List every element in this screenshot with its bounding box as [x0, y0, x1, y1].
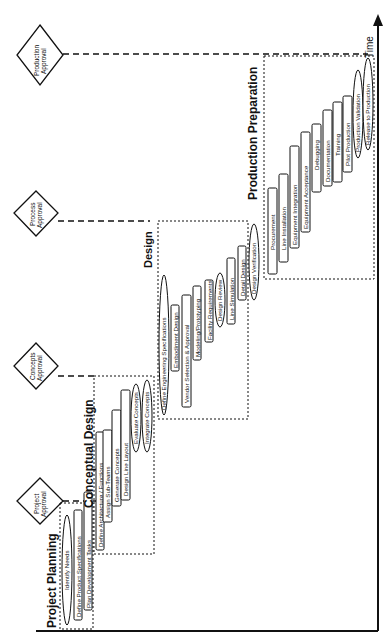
time-arrow-icon [373, 14, 383, 26]
svg-text:Integrate Concepts: Integrate Concepts [143, 392, 150, 444]
svg-text:Documentation: Documentation [324, 140, 331, 182]
diagram-svg: Time Project Approval Concepts Approval … [0, 0, 390, 639]
svg-text:Line Installation: Line Installation [280, 206, 287, 250]
phase-title: Design [142, 231, 154, 268]
svg-text:Production: Production [33, 45, 40, 76]
svg-text:Plan Development Tasks: Plan Development Tasks [85, 540, 92, 608]
phase-production-preparation: Production Preparation Procurement Line … [246, 56, 374, 279]
svg-text:Design Line Layout: Design Line Layout [122, 443, 129, 496]
svg-text:Process: Process [29, 202, 36, 226]
svg-text:Facility Requirements: Facility Requirements [206, 281, 213, 341]
svg-text:Design Verification: Design Verification [250, 242, 257, 294]
phase-title: Conceptual Design [82, 399, 96, 508]
phase-design: Design Define Engineering Specifications… [142, 221, 259, 419]
svg-text:Define Product Specifications: Define Product Specifications [75, 536, 82, 617]
svg-text:Vendor Selection & Approval: Vendor Selection & Approval [183, 325, 190, 403]
gate-concepts-approval: Concepts Approval [14, 343, 98, 389]
svg-text:Approval: Approval [40, 48, 48, 74]
svg-text:Detail Design: Detail Design [239, 259, 246, 296]
svg-text:Production Validation: Production Validation [354, 93, 361, 152]
svg-text:Approval: Approval [40, 491, 48, 517]
svg-text:Procurement: Procurement [269, 214, 276, 250]
svg-text:Debugging: Debugging [313, 140, 320, 170]
svg-text:Assign Sub-Teams: Assign Sub-Teams [104, 466, 111, 518]
svg-text:Approval: Approval [36, 202, 44, 228]
svg-text:Equipment Acceptance: Equipment Acceptance [302, 165, 309, 229]
svg-text:Equipment Integration: Equipment Integration [291, 184, 298, 245]
gate-process-approval: Process Approval [14, 191, 150, 236]
development-process-diagram: Time Project Approval Concepts Approval … [0, 0, 390, 639]
svg-text:Training: Training [334, 133, 341, 156]
svg-text:Modeling/Prototyping: Modeling/Prototyping [194, 298, 201, 357]
svg-text:Approval: Approval [36, 355, 44, 381]
svg-text:Define Engineering Specificati: Define Engineering Specifications [160, 317, 167, 410]
svg-text:Release to Production: Release to Production [364, 84, 371, 145]
svg-text:Pilot Production: Pilot Production [344, 122, 351, 166]
svg-text:Define Architecture / Function: Define Architecture / Functions [97, 463, 104, 547]
svg-text:Identify Needs: Identify Needs [63, 550, 70, 590]
phase-title: Production Preparation [246, 67, 260, 200]
svg-text:Embodiment Design: Embodiment Design [172, 312, 179, 368]
svg-text:Design Review: Design Review [216, 279, 223, 321]
phase-title: Project Planning [45, 533, 59, 628]
gate-production-approval: Production Approval [17, 25, 368, 85]
svg-text:Line Simulation: Line Simulation [228, 277, 235, 320]
svg-text:Generate Concepts: Generate Concepts [113, 448, 120, 502]
svg-text:Evaluate Concepts: Evaluate Concepts [132, 392, 139, 444]
